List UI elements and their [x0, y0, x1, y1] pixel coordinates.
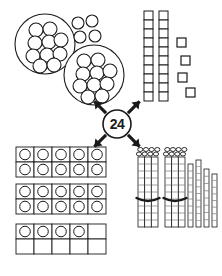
ten-frame-cell: [16, 239, 34, 254]
loose-square-unit: [178, 73, 187, 82]
bundle-stick-top: [136, 152, 141, 156]
ten-frame-full-2: [16, 184, 106, 214]
counter-unit: [95, 89, 109, 103]
counter-unit: [54, 33, 68, 47]
ten-frame-cell: [34, 239, 52, 254]
loose-stick-body: [188, 164, 193, 227]
loose-counter-unit: [86, 15, 98, 27]
rod-square-cell: [159, 38, 168, 47]
rod-square-cell: [159, 29, 168, 38]
bundle-stick-top: [182, 148, 187, 152]
counter-unit: [81, 90, 95, 104]
rod-square-cell: [144, 20, 153, 29]
bundle-stick-top: [175, 152, 180, 156]
loose-counter-unit: [74, 31, 86, 43]
counter-unit: [33, 59, 47, 73]
rod-square-cell: [144, 47, 153, 56]
bundle-stick-top: [149, 148, 154, 152]
bundle-stick-top: [142, 152, 147, 156]
rod-square-cell: [159, 11, 168, 20]
ten-frame-counter: [38, 201, 49, 212]
loose-square-unit: [177, 38, 186, 47]
ten-frame-counter: [20, 186, 31, 197]
bundle-stick-top: [153, 152, 158, 156]
ten-frame-counter: [92, 149, 103, 160]
ten-frame-counter: [20, 226, 31, 237]
rod-square-cell: [144, 11, 153, 20]
counter-unit: [91, 53, 105, 67]
ten-frame-cell: [70, 239, 88, 254]
bundle-stick-top: [155, 148, 160, 152]
ten-frame-counter: [56, 164, 67, 175]
ten-frame-counter: [92, 186, 103, 197]
loose-stick: [204, 169, 209, 227]
ten-frame-cell: [88, 224, 106, 239]
rod-square-cell: [159, 65, 168, 74]
loose-square-unit: [186, 88, 195, 97]
bundle-stick-top: [148, 152, 153, 156]
rod-square-cell: [159, 74, 168, 83]
rod-square-cell: [159, 20, 168, 29]
ten-frame-cell: [88, 239, 106, 254]
center-node-group: [94, 101, 139, 146]
rod-square-cell: [159, 47, 168, 56]
rod-square-cell: [144, 92, 153, 101]
loose-counter-unit: [72, 17, 84, 29]
counter-unit: [103, 64, 117, 78]
bundled-sticks-group: [136, 148, 217, 228]
square-rod-1: [144, 11, 153, 101]
ten-frame-full-1: [16, 147, 106, 177]
rod-square-cell: [144, 56, 153, 65]
ten-frame-counter: [20, 164, 31, 175]
counters-group: [15, 14, 124, 105]
ten-frame-counter: [20, 201, 31, 212]
bundle-stick-top: [138, 148, 143, 152]
rod-square-cell: [159, 56, 168, 65]
diagram-svg-layer: [0, 0, 222, 276]
rod-square-cell: [159, 83, 168, 92]
bundle-stick-top: [180, 152, 185, 156]
ten-frame-counter: [74, 201, 85, 212]
ten-frame-counter: [74, 149, 85, 160]
loose-stick: [188, 164, 193, 227]
bundle-stick-top: [165, 148, 170, 152]
loose-stick: [196, 160, 201, 227]
rod-square-cell: [144, 83, 153, 92]
bundle-stick-top: [170, 148, 175, 152]
center-circle: [103, 110, 131, 138]
ten-frame-partial: [16, 224, 106, 254]
ten-frames-group: [16, 147, 106, 254]
ten-frame-cell: [52, 239, 70, 254]
diagram-canvas: 24: [0, 0, 222, 276]
stick-bundle-1: [136, 148, 160, 228]
ten-frame-counter: [38, 149, 49, 160]
rod-square-cell: [159, 92, 168, 101]
ten-frame-counter: [38, 186, 49, 197]
loose-counter-unit: [89, 30, 101, 42]
rod-square-cell: [144, 29, 153, 38]
counter-unit: [47, 58, 61, 72]
square-rod-2: [159, 11, 168, 101]
counter-unit: [29, 23, 43, 37]
ten-frame-counter: [74, 164, 85, 175]
bundle-stick-top: [143, 148, 148, 152]
ten-frame-counter: [20, 149, 31, 160]
rod-square-cell: [144, 38, 153, 47]
rod-square-cell: [144, 74, 153, 83]
counter-unit: [43, 22, 57, 36]
bundle-stick-top: [169, 152, 174, 156]
ten-frame-counter: [56, 226, 67, 237]
ten-frame-counter: [56, 149, 67, 160]
base-ten-squares-group: [144, 11, 195, 101]
ten-frame-counter: [56, 186, 67, 197]
ten-frame-counter: [38, 164, 49, 175]
ten-frame-counter: [74, 226, 85, 237]
number-representation-diagram: [0, 0, 222, 276]
ten-frame-counter: [92, 164, 103, 175]
counter-unit: [28, 36, 42, 50]
stick-bundle-2: [163, 148, 187, 228]
bundle-stick-top: [176, 148, 181, 152]
ten-frame-counter: [56, 201, 67, 212]
loose-stick: [212, 174, 217, 227]
bundle-stick-top: [163, 152, 168, 156]
